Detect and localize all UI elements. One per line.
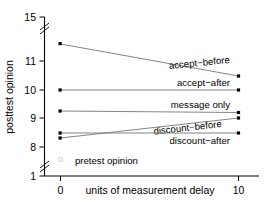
data-point-accept-after-x0 [59,88,62,91]
series-label-discount-before: discount−before [153,118,222,137]
axes-group [45,17,260,176]
pretest-opinion-marker-group: pretest opinion [59,155,138,166]
y-tick-label-1: 1 [30,170,36,182]
data-point-accept-before-x10 [237,74,240,77]
y-tick-label-9: 9 [30,112,36,124]
series-discount-after: discount−after [59,131,241,146]
line-chart-svg: 15 11 10 9 8 1 0 10 units of measurement… [0,0,265,215]
series-accept-before: accept−before [59,42,241,78]
data-point-accept-before-x0 [59,42,62,45]
y-tick-label-11: 11 [25,55,36,67]
x-tick-label-10: 10 [233,184,245,196]
data-point-accept-after-x10 [237,88,240,91]
series-label-accept-after: accept−after [177,77,231,88]
series-label-discount-after: discount−after [169,135,230,146]
y-axis-tick-labels: 15 11 10 9 8 1 [24,11,36,182]
x-tick-label-0: 0 [58,184,64,196]
x-axis-title: units of measurement delay [86,184,216,196]
data-point-message-only-x10 [237,111,240,114]
pretest-opinion-label: pretest opinion [75,155,138,166]
series-label-message-only: message only [171,99,230,110]
series-line-message-only [61,111,239,113]
chart-container: 15 11 10 9 8 1 0 10 units of measurement… [0,0,265,215]
data-point-discount-before-x10 [237,116,240,119]
series-label-accept-before: accept−before [168,54,230,71]
y-tick-label-8: 8 [30,141,36,153]
data-point-message-only-x0 [59,109,62,112]
series-accept-after: accept−after [59,77,241,92]
data-point-discount-after-x0 [59,131,62,134]
x-axis-ticks [61,176,239,181]
y-axis-ticks [40,17,45,176]
data-point-discount-before-x0 [59,136,62,139]
y-tick-label-15: 15 [24,11,36,23]
series-message-only: message only [59,99,241,114]
data-point-discount-after-x10 [237,131,240,134]
y-axis-title: posttest opinion [3,60,15,134]
y-tick-label-10: 10 [24,84,36,96]
pretest-opinion-marker [59,158,62,161]
